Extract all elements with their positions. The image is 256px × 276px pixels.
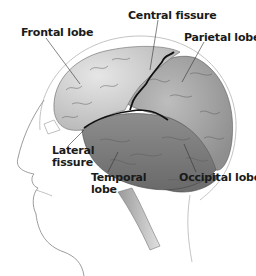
- neck-back: [188, 195, 192, 262]
- brain-stem: [118, 188, 160, 250]
- label-frontal-lobe: Frontal lobe: [21, 27, 93, 39]
- label-temporal-lobe: Temporal lobe: [91, 172, 146, 196]
- label-parietal-lobe: Parietal lobe: [184, 32, 256, 44]
- label-lateral-fissure: Lateral fissure: [52, 145, 94, 169]
- eye: [44, 120, 60, 134]
- label-occipital-lobe: Occipital lobe: [179, 172, 256, 184]
- label-central-fissure: Central fissure: [128, 10, 216, 22]
